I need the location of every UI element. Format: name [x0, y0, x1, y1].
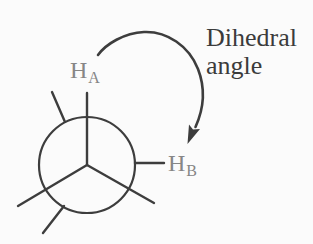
front-bond-lower-right [87, 165, 154, 203]
atom-subscript: B [186, 162, 197, 179]
atom-label-ha: HA [70, 57, 99, 83]
caption-line-1: Dihedral [206, 24, 297, 52]
caption-line-2: angle [206, 52, 297, 80]
atom-label-hb: HB [168, 150, 196, 176]
atom-symbol: H [168, 150, 185, 176]
atom-symbol: H [70, 57, 87, 83]
dihedral-angle-caption: Dihedral angle [206, 24, 297, 80]
dihedral-rotation-arrow [98, 32, 203, 127]
back-bond-lower-left [43, 206, 64, 233]
atom-subscript: A [88, 69, 100, 86]
arrowhead-icon [188, 125, 201, 145]
newman-projection-figure: HA HB Dihedral angle [0, 0, 313, 244]
back-bond-upper-left [52, 92, 65, 122]
